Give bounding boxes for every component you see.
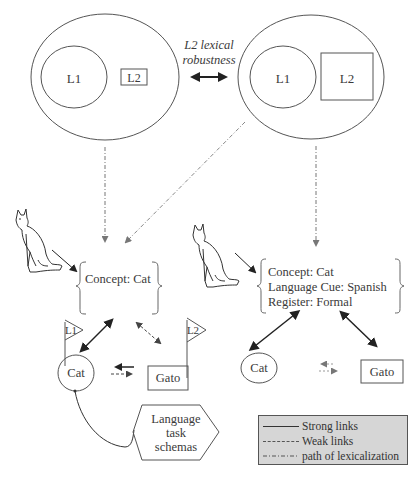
left-model-links [58, 318, 219, 460]
legend-item-weak: Weak links [263, 435, 353, 447]
lexicalization-path-diagonal [126, 122, 245, 242]
cat-icon [16, 209, 62, 272]
dashed-line-icon [263, 441, 299, 442]
cat-icon [193, 224, 239, 287]
right-concept-line-3: Register: Formal [268, 295, 352, 310]
legend-item-lexicalization: path of lexicalization [263, 450, 399, 462]
right-word-cat: Cat [250, 362, 267, 375]
top-left-l2-label: L2 [127, 72, 140, 84]
top-left-lexicon-model [31, 14, 179, 140]
right-concept-line-1: Concept: Cat [268, 265, 334, 280]
right-word-gato: Gato [370, 366, 394, 379]
schema-label-line3: schemas [155, 441, 197, 454]
robustness-label-line2: robustness [182, 54, 235, 67]
robustness-label-line1: L2 lexical [184, 39, 234, 52]
top-left-l1-label: L1 [67, 72, 81, 85]
right-concept-line-2: Language Cue: Spanish [268, 280, 387, 295]
flag-l2-label: L2 [187, 325, 199, 336]
legend-item-strong: Strong links [263, 420, 358, 432]
top-right-l2-label: L2 [340, 72, 354, 85]
dash-dot-line-icon [263, 455, 299, 457]
schema-label-line1: Language [151, 413, 200, 426]
legend-label: Weak links [302, 435, 353, 447]
left-word-gato: Gato [156, 372, 180, 385]
left-word-cat: Cat [67, 367, 84, 380]
left-concept-text: Concept: Cat [85, 272, 151, 287]
top-right-l1-label: L1 [276, 72, 290, 85]
flag-l1-label: L1 [65, 325, 77, 336]
legend-label: path of lexicalization [302, 450, 399, 462]
schema-label-line2: task [166, 427, 186, 440]
perception-arrow-right [235, 253, 255, 272]
solid-line-icon [263, 426, 299, 427]
left-concept-braces [76, 262, 162, 314]
top-right-lexicon-model [238, 15, 384, 139]
perception-arrow-left [52, 250, 76, 271]
legend: Strong links Weak links path of lexicali… [258, 415, 408, 465]
legend-label: Strong links [302, 420, 358, 432]
